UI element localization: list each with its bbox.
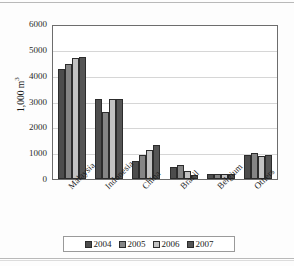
legend-label: 2005: [128, 239, 146, 249]
legend-swatch-2004: [85, 241, 92, 248]
bar-group: [202, 26, 239, 179]
chart-figure: 1,000 m3 0100020003000400050006000 Malay…: [0, 0, 294, 266]
bar-malaysia-2005: [65, 64, 72, 179]
page-rule-top: [0, 2, 294, 3]
page-rule-bottom-secondary: [0, 260, 294, 261]
legend-label: 2006: [162, 239, 180, 249]
bar-brazil-2005: [177, 165, 184, 179]
bar-group: [128, 26, 165, 179]
legend-item-2004: 2004: [85, 239, 112, 249]
y-axis-tick-label: 5000: [7, 46, 47, 55]
bar-malaysia-2007: [79, 57, 86, 179]
bar-malaysia-2006: [72, 58, 79, 179]
bar-group: [165, 26, 202, 179]
y-axis-title-text: 1,000 m: [16, 81, 26, 112]
y-axis-tick-label: 0: [7, 175, 47, 184]
y-axis-tick-label: 1000: [7, 149, 47, 158]
legend-label: 2004: [94, 239, 112, 249]
bar-belgium-2004: [207, 174, 214, 179]
y-axis-tick-label: 2000: [7, 123, 47, 132]
legend-item-2006: 2006: [153, 239, 180, 249]
bar-group: [90, 26, 127, 179]
bar-indonesia-2006: [109, 99, 116, 179]
page-rule-bottom: [0, 258, 294, 259]
y-axis-tick-label: 4000: [7, 72, 47, 81]
bar-indonesia-2005: [102, 112, 109, 179]
bar-others-2004: [244, 155, 251, 179]
bar-group: [240, 26, 277, 179]
y-axis-tick-label: 6000: [7, 20, 47, 29]
legend-swatch-2005: [119, 241, 126, 248]
bar-others-2005: [251, 153, 258, 179]
bar-china-2005: [139, 155, 146, 179]
bar-malaysia-2004: [58, 69, 65, 179]
bar-group: [53, 26, 90, 179]
bars-layer: [53, 26, 277, 179]
bar-brazil-2004: [170, 167, 177, 179]
legend-swatch-2006: [153, 241, 160, 248]
legend-swatch-2007: [187, 241, 194, 248]
legend-label: 2007: [196, 239, 214, 249]
legend-item-2005: 2005: [119, 239, 146, 249]
legend-item-2007: 2007: [187, 239, 214, 249]
chart-legend: 2004200520062007: [63, 236, 235, 252]
y-axis-tick-label: 3000: [7, 98, 47, 107]
